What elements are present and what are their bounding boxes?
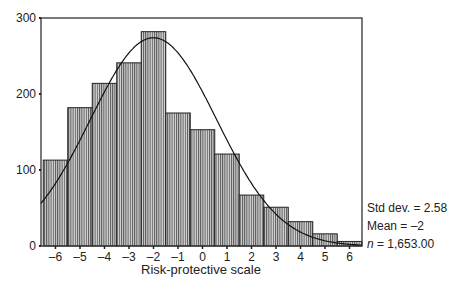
x-tick-label: 3 <box>273 250 280 264</box>
x-tick-label: –3 <box>122 250 136 264</box>
histogram-bar <box>313 234 338 246</box>
histogram-bar <box>117 63 142 246</box>
y-tick-label: 100 <box>16 163 36 177</box>
histogram-bar <box>215 154 240 246</box>
x-tick-label: 5 <box>322 250 329 264</box>
histogram-bar <box>43 160 68 246</box>
y-tick-label: 300 <box>16 11 36 25</box>
x-tick-label: 4 <box>297 250 304 264</box>
x-tick-label: 6 <box>346 250 353 264</box>
x-tick-label: –6 <box>49 250 63 264</box>
y-axis: 0100200300 <box>16 11 41 253</box>
x-tick-label: –5 <box>73 250 87 264</box>
n-annotation: n = 1,653.00 <box>367 237 434 251</box>
mean-annotation: Mean = –2 <box>367 219 424 233</box>
histogram-bar <box>288 222 313 246</box>
std-dev-annotation: Std dev. = 2.58 <box>367 201 447 215</box>
histogram-bar <box>264 207 289 246</box>
histogram-bars <box>43 32 362 246</box>
histogram-bar <box>190 130 215 246</box>
histogram-bar <box>239 195 264 246</box>
histogram-bar <box>166 113 191 246</box>
y-tick-label: 200 <box>16 87 36 101</box>
y-tick-label: 0 <box>29 239 36 253</box>
histogram-bar <box>141 32 166 246</box>
x-tick-label: –4 <box>98 250 112 264</box>
histogram-bar <box>68 108 93 246</box>
